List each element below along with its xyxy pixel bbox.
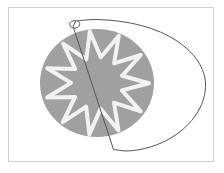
drawing-surface[interactable] <box>9 8 213 161</box>
canvas-frame[interactable] <box>8 7 214 162</box>
app-root: Drawing Canvas <box>0 0 224 173</box>
page-title: Drawing Canvas <box>0 0 1 1</box>
